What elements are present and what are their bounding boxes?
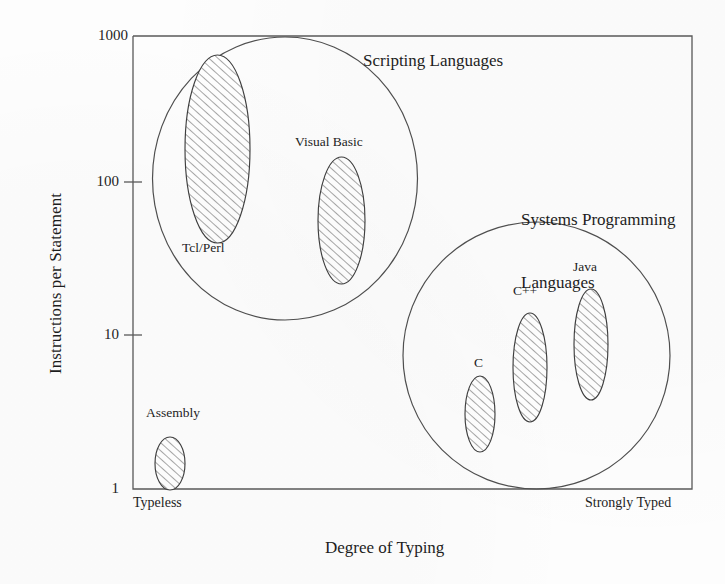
language-label-cpp: C++: [513, 283, 537, 299]
x-axis-right-label: Strongly Typed: [585, 495, 671, 511]
y-tick-label-100: 100: [83, 173, 119, 190]
region-label-systems-line2: Languages: [521, 272, 675, 293]
language-label-c: C: [474, 355, 483, 371]
ellipse-tcl-perl: [185, 55, 250, 243]
language-label-tcl-perl: Tcl/Perl: [182, 240, 225, 256]
figure-root: 1000 100 10 1 Instructions per Statement…: [0, 0, 725, 584]
y-axis-title: Instructions per Statement: [46, 193, 66, 374]
y-tick-label-10: 10: [83, 326, 119, 343]
region-label-systems-line1: Systems Programming: [521, 209, 675, 230]
region-label-scripting: Scripting Languages: [363, 50, 503, 71]
y-tick-label-1: 1: [83, 480, 119, 497]
language-label-visual-basic: Visual Basic: [295, 134, 363, 150]
y-tick-label-1000: 1000: [83, 27, 128, 44]
language-label-java: Java: [573, 259, 597, 275]
ellipse-visual-basic: [318, 157, 365, 284]
region-label-systems: Systems Programming Languages: [521, 167, 675, 335]
ellipse-c: [465, 376, 495, 452]
ellipse-assembly: [155, 437, 185, 490]
x-axis-left-label: Typeless: [133, 495, 182, 511]
language-label-assembly: Assembly: [146, 405, 200, 421]
x-axis-title: Degree of Typing: [325, 538, 444, 558]
